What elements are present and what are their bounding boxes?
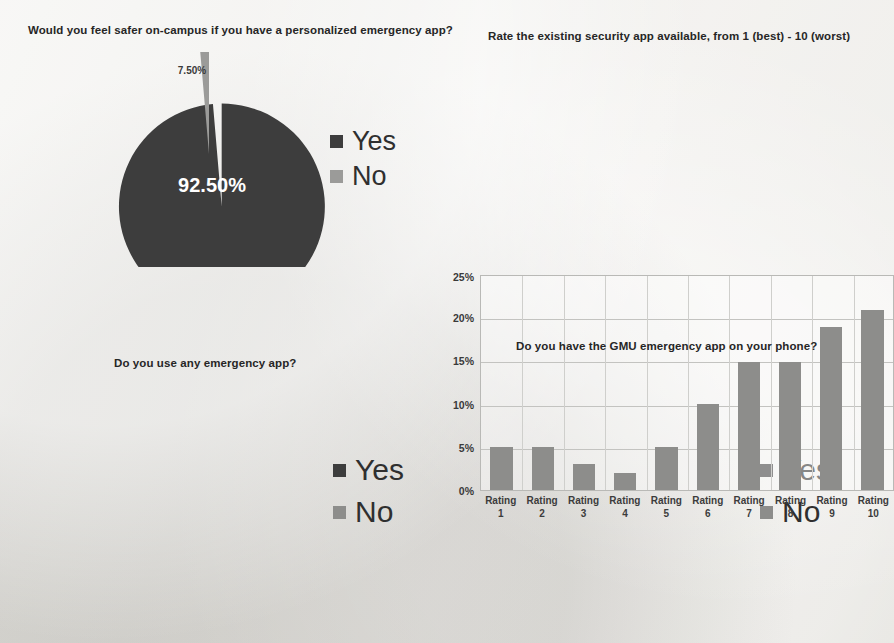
bar-5[interactable] bbox=[655, 447, 677, 490]
pie-value-label-yes: 92.50% bbox=[178, 174, 246, 196]
bar-cell bbox=[563, 276, 604, 490]
bar-10[interactable] bbox=[861, 310, 883, 490]
y-tick-3: 15% bbox=[453, 355, 474, 367]
bar-9[interactable] bbox=[820, 327, 842, 490]
legend-swatch-no-icon bbox=[333, 506, 346, 519]
bar-cell bbox=[769, 276, 810, 490]
legend-label-yes: Yes bbox=[355, 455, 404, 485]
chart-title-use-any-emergency-app: Do you use any emergency app? bbox=[114, 357, 296, 369]
chart-rating-bar: Rate the existing security app available… bbox=[488, 30, 850, 42]
legend-item-no[interactable]: No bbox=[333, 497, 404, 527]
legend-use-any-emergency-app: Yes No bbox=[333, 455, 404, 535]
bar-8[interactable] bbox=[779, 362, 801, 490]
bar-cell bbox=[605, 276, 646, 490]
x-tick-8: Rating8 bbox=[770, 495, 811, 520]
y-tick-5: 25% bbox=[453, 271, 474, 283]
bar-7[interactable] bbox=[738, 362, 760, 490]
bar-chart-plot-area bbox=[480, 275, 894, 491]
bar-cell bbox=[646, 276, 687, 490]
legend-item-yes[interactable]: Yes bbox=[333, 455, 404, 485]
x-tick-1: Rating1 bbox=[480, 495, 521, 520]
bar-cell bbox=[852, 276, 893, 490]
bar-cell bbox=[522, 276, 563, 490]
y-tick-0: 0% bbox=[459, 485, 474, 497]
chart-title-safer-on-campus: Would you feel safer on-campus if you ha… bbox=[28, 24, 453, 36]
bar-series bbox=[481, 276, 893, 490]
bar-2[interactable] bbox=[532, 447, 554, 490]
chart-title-gmu-app-on-phone: Do you have the GMU emergency app on you… bbox=[516, 340, 817, 352]
y-tick-1: 5% bbox=[459, 442, 474, 454]
pie-safer-on-campus-svg: 92.50% 7.50% bbox=[100, 52, 330, 267]
x-tick-3: Rating3 bbox=[563, 495, 604, 520]
bar-3[interactable] bbox=[573, 464, 595, 490]
bar-6[interactable] bbox=[697, 404, 719, 490]
bar-cell bbox=[811, 276, 852, 490]
bar-cell bbox=[481, 276, 522, 490]
chart-use-any-emergency-app: Do you use any emergency app? bbox=[114, 357, 296, 369]
x-tick-10: Rating10 bbox=[853, 495, 894, 520]
y-tick-4: 20% bbox=[453, 312, 474, 324]
bar-1[interactable] bbox=[490, 447, 512, 490]
x-tick-2: Rating2 bbox=[521, 495, 562, 520]
bar-chart-x-axis: Rating1Rating2Rating3Rating4Rating5Ratin… bbox=[480, 495, 894, 520]
bar-chart-rating: 0% 5% 10% 15% 20% 25% Rating1Rating2Rati… bbox=[440, 275, 894, 535]
bar-cell bbox=[728, 276, 769, 490]
legend-label-no: No bbox=[355, 497, 393, 527]
x-tick-5: Rating5 bbox=[646, 495, 687, 520]
pie-safer-on-campus: 92.50% 7.50% bbox=[100, 52, 894, 267]
x-tick-6: Rating6 bbox=[687, 495, 728, 520]
bar-chart-y-axis: 0% 5% 10% 15% 20% 25% bbox=[440, 275, 474, 491]
x-tick-9: Rating9 bbox=[811, 495, 852, 520]
pie-value-label-no: 7.50% bbox=[178, 65, 206, 76]
chart-safer-on-campus-pie: Would you feel safer on-campus if you ha… bbox=[28, 24, 453, 36]
bar-cell bbox=[687, 276, 728, 490]
bar-4[interactable] bbox=[614, 473, 636, 490]
chart-gmu-app-on-phone: Do you have the GMU emergency app on you… bbox=[516, 340, 817, 352]
y-tick-2: 10% bbox=[453, 399, 474, 411]
chart-title-rating-bar: Rate the existing security app available… bbox=[488, 30, 850, 42]
legend-swatch-yes-icon bbox=[333, 464, 346, 477]
x-tick-7: Rating7 bbox=[728, 495, 769, 520]
x-tick-4: Rating4 bbox=[604, 495, 645, 520]
